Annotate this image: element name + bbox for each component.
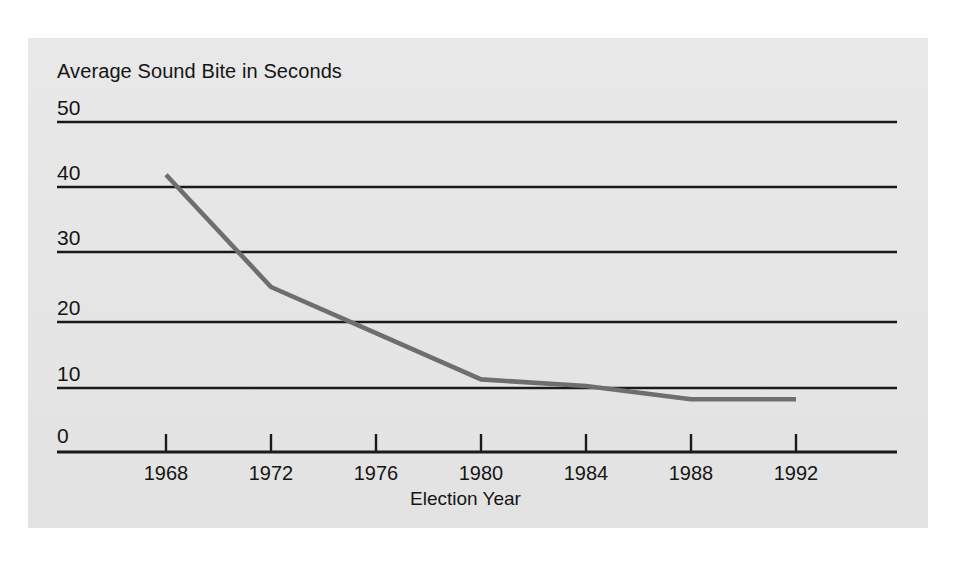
data-series-line — [166, 175, 796, 399]
x-axis-ticks — [166, 434, 796, 452]
chart-plot-svg — [0, 0, 953, 564]
gridlines — [57, 122, 897, 388]
chart-figure: Average Sound Bite in Seconds 50 40 30 2… — [0, 0, 953, 564]
